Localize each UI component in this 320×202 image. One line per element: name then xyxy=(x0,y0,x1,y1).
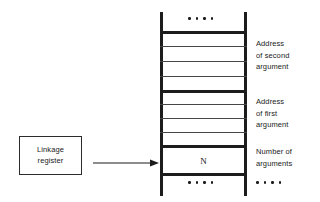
annotation-line: of first xyxy=(256,108,289,120)
stack-divider-thin xyxy=(160,104,247,105)
stack-divider-thick xyxy=(160,31,247,34)
diagram-canvas: Linkage register N xyxy=(0,0,320,202)
annotation-second-argument-address: Address of second argument xyxy=(256,38,289,73)
arrow-right-icon xyxy=(93,153,159,161)
stack-bottom-ellipsis-icon xyxy=(188,181,213,184)
annotation-ellipsis-icon xyxy=(256,181,281,184)
annotation-line: Address xyxy=(256,96,289,108)
stack-top-ellipsis-icon xyxy=(188,17,213,20)
stack-divider-thin xyxy=(160,76,247,77)
stack-divider-thin xyxy=(160,118,247,119)
linkage-register-label-line1: Linkage xyxy=(37,145,64,155)
annotation-line: Number of xyxy=(256,146,292,158)
argument-count-cell-value: N xyxy=(160,156,247,166)
linkage-register-label-line2: register xyxy=(38,156,64,166)
stack-divider-thin xyxy=(160,61,247,62)
annotation-line: argument xyxy=(256,61,289,73)
stack-divider-thick xyxy=(160,145,247,148)
annotation-line: Address xyxy=(256,38,289,50)
stack-divider-thick xyxy=(160,90,247,93)
linkage-register-box: Linkage register xyxy=(19,136,82,175)
stack-divider-thick xyxy=(160,173,247,176)
annotation-line: argument xyxy=(256,119,289,131)
annotation-argument-count: Number of arguments xyxy=(256,146,292,169)
annotation-first-argument-address: Address of first argument xyxy=(256,96,289,131)
argument-stack: N xyxy=(158,12,250,196)
annotation-line: of second xyxy=(256,50,289,62)
annotation-line: arguments xyxy=(256,158,292,170)
stack-divider-thin xyxy=(160,46,247,47)
stack-divider-thin xyxy=(160,132,247,133)
